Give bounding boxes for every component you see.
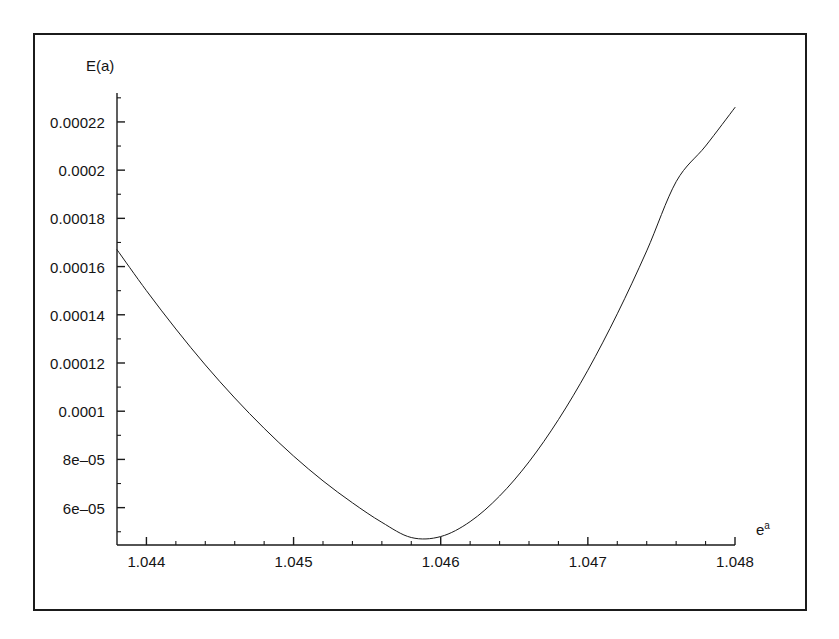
plot-border-frame xyxy=(33,33,807,611)
x-tick-label: 1.045 xyxy=(275,553,313,570)
x-tick-label: 1.046 xyxy=(422,553,460,570)
x-tick-label: 1.048 xyxy=(716,553,754,570)
x-axis-title: ea xyxy=(756,521,770,538)
y-tick-label: 0.0001 xyxy=(0,403,105,420)
y-tick-label: 0.00022 xyxy=(0,113,105,130)
x-tick-label: 1.047 xyxy=(569,553,607,570)
x-tick-label: 1.044 xyxy=(127,553,165,570)
x-axis-title-exponent: a xyxy=(764,520,770,531)
y-tick-label: 0.00018 xyxy=(0,210,105,227)
y-tick-label: 6e‒05 xyxy=(0,499,105,516)
y-tick-label: 0.0002 xyxy=(0,162,105,179)
y-tick-label: 8e‒05 xyxy=(0,451,105,468)
y-tick-label: 0.00012 xyxy=(0,354,105,371)
figure-root: E(a) ea 6e‒058e‒050.00010.000120.000140.… xyxy=(0,0,839,639)
y-axis-title: E(a) xyxy=(86,57,114,74)
y-tick-label: 0.00016 xyxy=(0,258,105,275)
y-tick-label: 0.00014 xyxy=(0,306,105,323)
